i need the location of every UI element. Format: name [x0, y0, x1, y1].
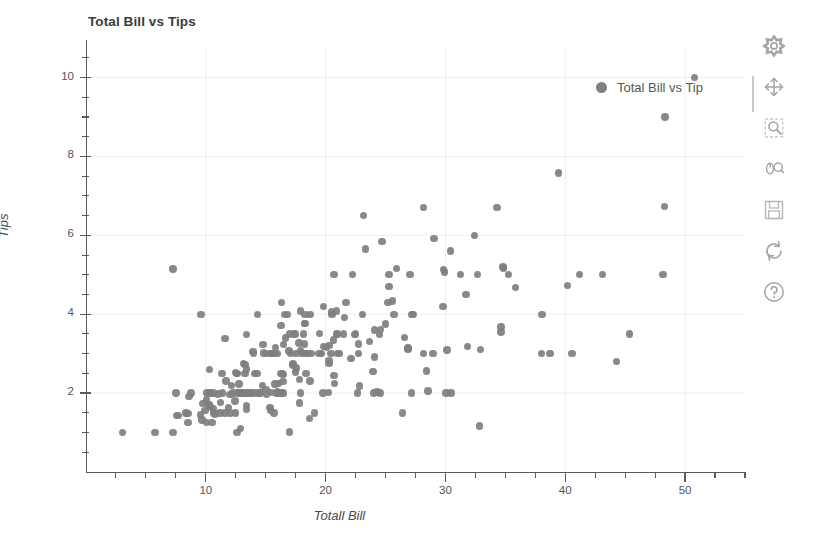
x-axis-minor-tick [415, 472, 416, 478]
x-axis-minor-tick [744, 472, 745, 478]
data-point [576, 271, 583, 278]
data-point [219, 389, 226, 396]
data-point [341, 314, 348, 321]
y-axis-tick-label: 6 [22, 227, 74, 239]
y-axis-minor-tick [82, 215, 89, 216]
data-point [235, 380, 242, 387]
legend-marker-icon [596, 82, 607, 93]
data-point [211, 410, 218, 417]
data-point [477, 346, 484, 353]
data-point [355, 340, 362, 347]
x-axis-tick [325, 472, 326, 482]
data-point [340, 330, 347, 337]
toolbar-divider [752, 76, 754, 112]
data-point [292, 350, 299, 357]
y-axis-tick-label: 8 [22, 148, 74, 160]
data-point [306, 377, 313, 384]
data-point [151, 429, 158, 436]
data-point [184, 419, 191, 426]
data-point [384, 299, 391, 306]
data-point [296, 376, 303, 383]
y-axis-minor-tick [82, 432, 89, 433]
data-point [423, 367, 430, 374]
data-point [371, 353, 378, 360]
data-point [270, 409, 277, 416]
data-point [385, 283, 392, 290]
x-axis-minor-tick [145, 472, 146, 478]
data-point [406, 271, 413, 278]
data-point [300, 330, 307, 337]
data-point [399, 409, 406, 416]
y-axis-minor-tick [82, 116, 89, 117]
data-point [218, 370, 225, 377]
data-point [464, 343, 471, 350]
save-tool-icon[interactable] [758, 194, 790, 226]
data-point [462, 291, 469, 298]
data-point [626, 330, 633, 337]
data-point [268, 350, 275, 357]
x-axis-tick-label: 50 [665, 484, 705, 496]
x-axis-title: Totall Bill [0, 508, 819, 523]
x-axis-minor-tick [385, 472, 386, 478]
scatter-plot-figure: Total Bill vs Tips 2468101020304050 Tota… [0, 0, 819, 553]
y-axis-minor-tick [82, 97, 89, 98]
data-point [325, 357, 332, 364]
x-axis-minor-tick [115, 472, 116, 478]
data-point [296, 399, 303, 406]
data-point [404, 344, 411, 351]
data-point [250, 350, 257, 357]
help-tool-icon[interactable] [758, 276, 790, 308]
data-point [382, 320, 389, 327]
x-axis-minor-tick [655, 472, 656, 478]
data-point [355, 350, 362, 357]
data-point [493, 204, 500, 211]
data-point [320, 303, 327, 310]
data-point [241, 370, 248, 377]
data-point [385, 271, 392, 278]
bokeh-toolbar[interactable] [752, 30, 796, 308]
data-point [279, 378, 286, 385]
bokeh-logo-icon[interactable] [758, 30, 790, 62]
pan-tool-icon[interactable] [758, 71, 790, 103]
plot-canvas[interactable] [86, 46, 745, 472]
data-point [347, 355, 354, 362]
y-axis-minor-tick [82, 274, 89, 275]
data-point [327, 350, 334, 357]
data-point [316, 330, 323, 337]
data-point [420, 204, 427, 211]
data-point [474, 271, 481, 278]
data-point [254, 311, 261, 318]
data-point [613, 358, 620, 365]
y-axis-minor-tick [82, 373, 89, 374]
data-point [206, 366, 213, 373]
box-zoom-tool-icon[interactable] [758, 112, 790, 144]
data-point [349, 271, 356, 278]
data-points-layer [86, 46, 745, 472]
y-axis-minor-tick [82, 353, 89, 354]
x-axis-minor-tick [235, 472, 236, 478]
page-title: Total Bill vs Tips [88, 14, 196, 29]
y-axis-tick [80, 314, 91, 315]
data-point [243, 406, 250, 413]
x-axis-minor-tick [595, 472, 596, 478]
data-point [401, 334, 408, 341]
x-axis-minor-tick [714, 472, 715, 478]
wheel-zoom-tool-icon[interactable] [758, 153, 790, 185]
data-point [201, 407, 208, 414]
data-point [228, 382, 235, 389]
data-point [359, 311, 366, 318]
data-point [420, 350, 427, 357]
data-point [409, 311, 416, 318]
data-point [169, 429, 176, 436]
x-axis-tick [684, 472, 685, 482]
data-point [568, 350, 575, 357]
reset-tool-icon[interactable] [758, 235, 790, 267]
data-point [408, 389, 415, 396]
data-point [333, 330, 340, 337]
x-axis-minor-tick [265, 472, 266, 478]
legend[interactable]: Total Bill vs Tip [592, 78, 707, 97]
data-point [471, 232, 478, 239]
data-point [376, 331, 383, 338]
y-axis-tick [80, 156, 91, 157]
data-point [221, 335, 228, 342]
